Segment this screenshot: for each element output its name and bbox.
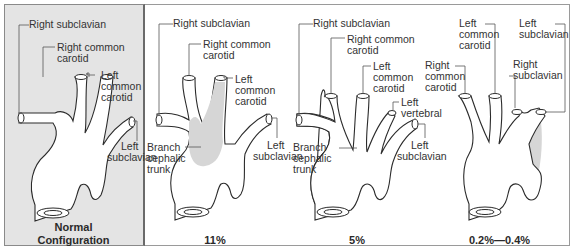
label-left-common-carotid-3: carotid [373, 83, 405, 94]
label-left-common-carotid-3: carotid [235, 96, 267, 107]
caption-line-1: Normal [5, 221, 142, 234]
label-branch-cephalic-trunk-3: trunk [147, 164, 170, 175]
panel-normal-configuration: Right subclavian Right common carotid Le… [4, 4, 145, 246]
caption-percent: 5% [285, 234, 429, 247]
label-left-subclavian-2: subclavian [519, 29, 569, 40]
label-right-subclavian: Right subclavian [29, 19, 106, 30]
caption-line-2: Configuration [5, 234, 142, 247]
label-right-common-carotid-3: carotid [425, 82, 457, 93]
label-right-common-carotid-2: carotid [203, 50, 235, 61]
caption-percent: 0.2%—0.4% [429, 234, 570, 247]
panel-aberrant-right-subclavian: Left common carotid Left subclavian Righ… [429, 4, 570, 246]
label-right-common-carotid-2: carotid [347, 45, 379, 56]
label-left-common-carotid-3: carotid [459, 40, 491, 51]
caption-normal: Normal Configuration [5, 221, 142, 247]
panel-vertebral-variant: Right subclavian Right common carotid Le… [285, 4, 429, 246]
label-left-common-carotid-3: carotid [101, 92, 133, 103]
label-right-subclavian: Right subclavian [173, 18, 250, 29]
aortic-arch-aberrant-drawing [429, 4, 570, 246]
caption-percent: 11% [145, 234, 285, 247]
label-branch-cephalic-trunk-3: trunk [293, 164, 316, 175]
label-right-common-carotid-2: carotid [57, 53, 89, 64]
panel-bovine-arch: Right subclavian Right common carotid Le… [145, 4, 285, 246]
label-right-subclavian: Right subclavian [313, 18, 390, 29]
label-right-subclavian-2: subclavian [513, 70, 563, 81]
